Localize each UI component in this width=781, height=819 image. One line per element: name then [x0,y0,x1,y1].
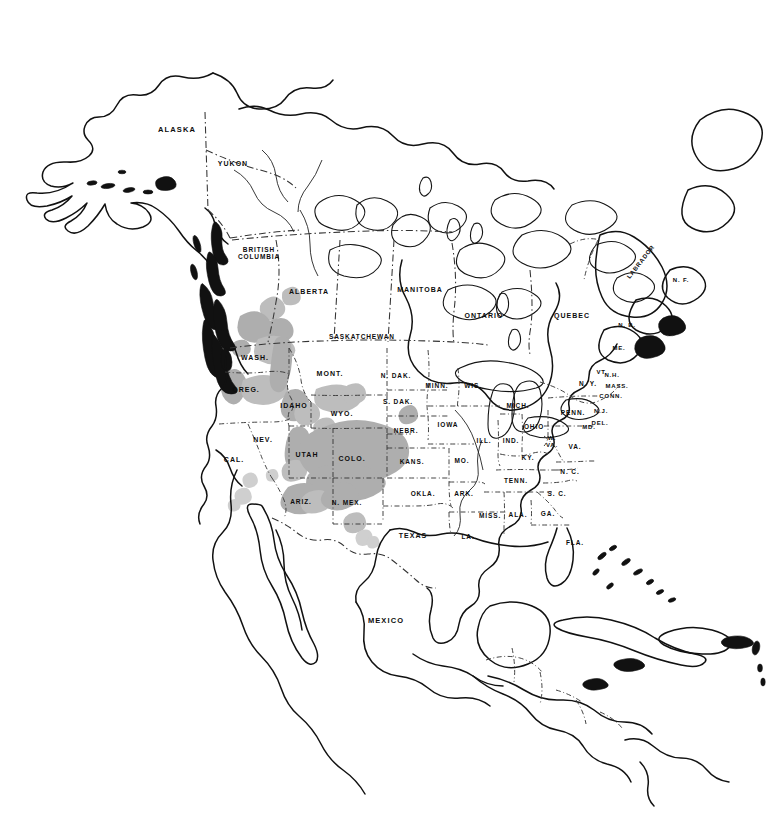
map-label-montana: MONT. [317,370,344,378]
map-label-north-carolina: N. C. [560,468,579,475]
map-label-california: CAL. [224,456,244,464]
map-label-manitoba: MANITOBA [397,286,443,294]
map-label-ontario: ONTARIO [465,312,504,320]
distribution-range-shading [221,287,418,549]
map-label-new-mexico: N. MEX. [332,499,363,506]
map-label-mexico: MEXICO [368,617,404,625]
map-label-nebraska: NEBR. [394,427,419,434]
inland-lakes [419,177,520,350]
map-label-oklahoma: OKLA. [411,490,436,497]
map-label-arizona: ARIZ. [290,498,311,505]
map-label-west-virginia: W.VA. [546,435,558,448]
map-label-pennsylvania: PENN. [561,409,585,416]
map-label-british-columbia: BRITISHCOLUMBIA [238,246,280,261]
map-label-newfoundland: N. F. [673,277,689,284]
map-label-minnesota: MINN. [426,382,449,389]
map-label-oregon: OREG. [232,386,260,394]
map-label-new-brunswick: N. B. [618,322,636,329]
map-label-mississippi: MISS. [479,512,501,519]
map-label-louisiana: LA. [461,533,474,540]
map-label-washington: WASH. [241,354,269,362]
map-label-indiana: IND. [503,437,520,444]
map-label-new-jersey: N.J. [594,408,608,415]
map-label-illinois: ILL. [476,437,491,444]
map-label-south-dakota: S. DAK. [383,398,413,405]
map-label-kentucky: KY. [522,454,535,461]
map-label-alabama: ALA. [509,511,528,518]
map-label-nevada: NEV. [253,436,273,444]
map-label-kansas: KANS. [400,458,425,465]
map-label-saskatchewan: SASKATCHEWAN [329,333,395,340]
map-label-virginia: VA. [568,443,581,450]
map-label-north-dakota: N. DAK. [381,372,412,379]
north-america-map-svg [0,0,781,819]
map-label-georgia: GA. [541,510,555,517]
map-canvas: ALASKAYUKONBRITISHCOLUMBIAALBERTASASKATC… [0,0,781,819]
map-label-idaho: IDAHO [280,402,308,410]
map-label-arkansas: ARK. [454,490,474,497]
caribbean-islands [554,544,765,690]
map-label-texas: TEXAS [399,532,427,540]
map-label-wyoming: WYO. [331,410,354,418]
map-label-yukon: YUKON [218,160,248,168]
map-label-alberta: ALBERTA [289,288,329,296]
map-label-new-hampshire: N.H. [604,372,619,379]
map-label-alaska: ALASKA [158,126,196,134]
map-label-tennessee: TENN. [504,477,528,484]
map-label-connecticut: CONN. [599,393,622,400]
map-label-massachusetts: MASS. [605,383,628,390]
map-label-quebec: QUEBEC [554,312,590,320]
map-label-wisconsin: WIS. [464,382,482,389]
map-label-delaware: DEL. [592,420,609,427]
map-label-colorado: COLO. [338,455,365,463]
map-label-utah: UTAH [296,451,319,459]
map-label-missouri: MO. [455,457,470,464]
aleutian-islands [87,170,153,194]
map-label-iowa: IOWA [438,421,459,428]
map-label-florida: FLA. [566,539,584,546]
map-label-ohio: OHIO [524,423,544,430]
map-label-south-carolina: S. C. [548,490,567,497]
map-label-new-york: N. Y. [579,380,597,387]
map-label-michigan: MICH. [507,402,530,409]
map-label-maine: ME. [612,345,625,352]
